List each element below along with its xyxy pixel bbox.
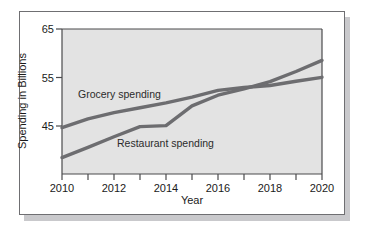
- x-tick-label: 2020: [302, 182, 342, 194]
- y-axis-title: Spending in Billions: [16, 31, 28, 171]
- x-tick-label: 2010: [42, 182, 82, 194]
- series-annotation-grocery: Grocery spending: [78, 88, 161, 100]
- x-tick-label: 2018: [250, 182, 290, 194]
- x-tick-label: 2014: [146, 182, 186, 194]
- y-tick-label: 65: [28, 23, 54, 35]
- x-axis-title: Year: [62, 194, 322, 206]
- series-annotation-restaurant: Restaurant spending: [117, 137, 214, 149]
- x-tick-label: 2016: [198, 182, 238, 194]
- y-tick-label: 55: [28, 72, 54, 84]
- x-axis-ticks: [62, 174, 322, 180]
- plot-area-background: [62, 29, 322, 174]
- x-tick-label: 2012: [94, 182, 134, 194]
- line-chart: Spending in Billions Year 65 55 45 2010 …: [0, 0, 367, 238]
- y-axis-ticks: [56, 29, 62, 126]
- y-tick-label: 45: [28, 120, 54, 132]
